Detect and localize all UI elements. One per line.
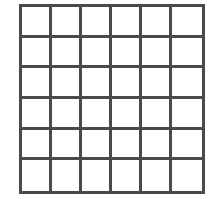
grid-cell[interactable] [142, 130, 172, 161]
grid-cell[interactable] [82, 7, 112, 38]
grid-cell[interactable] [172, 7, 202, 38]
grid-cell[interactable] [142, 7, 172, 38]
grid-cell[interactable] [52, 160, 82, 191]
grid-cell[interactable] [52, 99, 82, 130]
grid-cell[interactable] [52, 68, 82, 99]
canvas [0, 0, 211, 199]
grid-cell[interactable] [172, 99, 202, 130]
grid-cell[interactable] [22, 38, 52, 69]
grid-cell[interactable] [112, 38, 142, 69]
grid-cell[interactable] [52, 38, 82, 69]
grid-6x6 [19, 4, 205, 194]
grid-cell[interactable] [142, 160, 172, 191]
grid-cell[interactable] [112, 99, 142, 130]
grid-cell[interactable] [172, 160, 202, 191]
grid-cell[interactable] [82, 160, 112, 191]
grid-cell[interactable] [142, 38, 172, 69]
grid-cell[interactable] [112, 7, 142, 38]
grid-cell[interactable] [172, 68, 202, 99]
grid-cell[interactable] [142, 68, 172, 99]
grid-cell[interactable] [82, 99, 112, 130]
grid-cell[interactable] [22, 99, 52, 130]
grid-cell[interactable] [22, 160, 52, 191]
grid-cell[interactable] [22, 68, 52, 99]
grid-cell[interactable] [142, 99, 172, 130]
grid-cell[interactable] [22, 130, 52, 161]
grid-cell[interactable] [22, 7, 52, 38]
grid-cell[interactable] [112, 160, 142, 191]
grid-cell[interactable] [82, 68, 112, 99]
grid-cell[interactable] [112, 68, 142, 99]
grid-cell[interactable] [52, 130, 82, 161]
grid-cell[interactable] [112, 130, 142, 161]
grid-cell[interactable] [52, 7, 82, 38]
grid-cell[interactable] [172, 130, 202, 161]
grid-cell[interactable] [82, 38, 112, 69]
grid-cell[interactable] [82, 130, 112, 161]
grid-cell[interactable] [172, 38, 202, 69]
